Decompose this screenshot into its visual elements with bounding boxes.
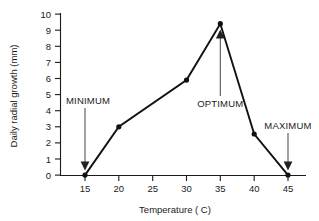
- svg-text:15: 15: [80, 183, 91, 194]
- data-point: [285, 173, 290, 178]
- y-tick-5: 5: [46, 89, 61, 100]
- data-point: [252, 131, 257, 136]
- x-tick-15: 15: [80, 176, 91, 195]
- x-tick-40: 40: [249, 176, 260, 195]
- svg-text:35: 35: [215, 183, 226, 194]
- annotation-optimum: OPTIMUM: [197, 30, 243, 110]
- svg-text:6: 6: [46, 73, 51, 84]
- svg-text:3: 3: [46, 121, 51, 132]
- y-axis-ticks: 10 9 8 7 6 5 4: [40, 9, 60, 181]
- svg-text:0: 0: [46, 170, 51, 181]
- y-axis-title: Daily radial growth (mm): [8, 45, 19, 148]
- y-tick-6: 6: [46, 73, 61, 84]
- y-tick-2: 2: [46, 137, 61, 148]
- svg-text:2: 2: [46, 137, 51, 148]
- x-tick-20: 20: [114, 176, 125, 195]
- annotation-maximum: MAXIMUM: [264, 120, 311, 171]
- annotation-optimum-label: OPTIMUM: [197, 98, 243, 109]
- data-point-markers: [82, 21, 290, 178]
- svg-text:8: 8: [46, 41, 51, 52]
- data-point: [184, 78, 189, 83]
- x-tick-45: 45: [283, 176, 294, 195]
- y-tick-4: 4: [46, 105, 61, 116]
- data-point: [116, 124, 121, 129]
- chart-container: Daily radial growth (mm) 10 9 8 7: [0, 0, 319, 221]
- annotation-maximum-arrow-head: [284, 162, 293, 171]
- annotation-minimum: MINIMUM: [66, 95, 110, 171]
- y-tick-1: 1: [46, 154, 61, 165]
- x-tick-25: 25: [147, 176, 158, 195]
- x-axis-ticks: 15 20 25 30 35 40: [80, 176, 294, 195]
- svg-text:25: 25: [147, 183, 158, 194]
- y-tick-9: 9: [46, 25, 61, 36]
- svg-text:1: 1: [46, 154, 51, 165]
- x-tick-30: 30: [181, 176, 192, 195]
- y-tick-7: 7: [46, 57, 61, 68]
- data-series-line: [85, 24, 288, 175]
- svg-text:4: 4: [46, 105, 51, 116]
- data-point: [218, 21, 223, 26]
- data-point: [82, 173, 87, 178]
- svg-text:20: 20: [114, 183, 125, 194]
- svg-text:30: 30: [181, 183, 192, 194]
- svg-text:10: 10: [40, 9, 51, 20]
- y-tick-0: 0: [46, 170, 61, 181]
- line-chart: Daily radial growth (mm) 10 9 8 7: [0, 0, 319, 221]
- x-tick-35: 35: [215, 176, 226, 195]
- svg-text:7: 7: [46, 57, 51, 68]
- annotation-maximum-label: MAXIMUM: [264, 120, 311, 131]
- y-tick-3: 3: [46, 121, 61, 132]
- svg-text:9: 9: [46, 25, 51, 36]
- annotation-minimum-label: MINIMUM: [66, 95, 110, 106]
- svg-text:45: 45: [283, 183, 294, 194]
- y-tick-10: 10: [40, 9, 60, 20]
- x-axis-title: Temperature ( C): [139, 204, 211, 215]
- svg-text:5: 5: [46, 89, 51, 100]
- y-tick-8: 8: [46, 41, 61, 52]
- svg-text:40: 40: [249, 183, 260, 194]
